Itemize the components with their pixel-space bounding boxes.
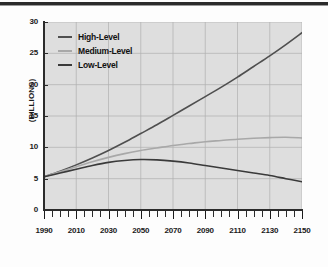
x-axis-tick-mark-major (109, 211, 110, 219)
x-axis-tick-label: 1990 (30, 226, 58, 235)
x-axis-tick-mark-minor (92, 211, 93, 217)
x-axis-tick-mark-minor (125, 211, 126, 217)
x-axis-tick-label: 2150 (288, 226, 316, 235)
x-axis-tick-mark-minor (165, 211, 166, 217)
x-axis-tick-label: 2090 (191, 226, 219, 235)
y-axis-tick-mark (44, 22, 48, 23)
x-axis-tick-mark-minor (100, 211, 101, 217)
x-axis-tick-mark-minor (229, 211, 230, 217)
x-axis-tick-mark-minor (189, 211, 190, 217)
x-axis-tick-mark-minor (246, 211, 247, 217)
y-axis-tick-label: 10 (16, 142, 38, 151)
y-axis-tick-label: 30 (16, 17, 38, 26)
legend-line-icon (58, 50, 72, 52)
x-axis-tick-mark-minor (149, 211, 150, 217)
x-axis-tick-mark-minor (117, 211, 118, 217)
x-axis-tick-label: 2030 (95, 226, 123, 235)
x-axis-tick-mark-major (141, 211, 142, 219)
x-axis-tick-mark-minor (133, 211, 134, 217)
x-axis-tick-mark-minor (213, 211, 214, 217)
x-axis-tick-mark-major (76, 211, 77, 219)
x-axis-tick-mark-minor (60, 211, 61, 217)
chart-legend: High-LevelMedium-LevelLow-Level (58, 30, 148, 72)
x-axis-tick-mark-major (44, 211, 45, 219)
x-axis-tick-mark-minor (197, 211, 198, 217)
x-axis-tick-mark-minor (278, 211, 279, 217)
y-axis-tick-mark (44, 53, 48, 54)
x-axis-tick-mark-major (238, 211, 239, 219)
legend-line-icon (58, 36, 72, 38)
x-axis-tick-mark-minor (84, 211, 85, 217)
y-axis-tick-label: 25 (16, 48, 38, 57)
figure-container: (BILLIONS) 051015202530 1990201020302050… (0, 0, 328, 267)
x-axis-tick-mark-minor (157, 211, 158, 217)
x-axis-tick-mark-minor (294, 211, 295, 217)
y-axis-tick-label: 0 (16, 205, 38, 214)
legend-line-icon (58, 64, 72, 66)
x-axis-tick-mark-major (173, 211, 174, 219)
y-axis-tick-mark (44, 116, 48, 117)
legend-item-label: High-Level (78, 32, 119, 42)
x-axis-tick-mark-major (270, 211, 271, 219)
x-axis-tick-label: 2110 (224, 226, 252, 235)
y-axis-tick-mark (44, 85, 48, 86)
x-axis-tick-mark-major (205, 211, 206, 219)
legend-item[interactable]: Medium-Level (58, 44, 148, 57)
legend-item[interactable]: Low-Level (58, 58, 148, 71)
y-axis-tick-label: 20 (16, 80, 38, 89)
legend-item-label: Medium-Level (78, 46, 132, 56)
x-axis-tick-mark-minor (286, 211, 287, 217)
legend-item[interactable]: High-Level (58, 30, 148, 43)
x-axis-tick-label: 2070 (159, 226, 187, 235)
y-axis-tick-mark (44, 179, 48, 180)
y-axis-tick-mark (44, 147, 48, 148)
x-axis-tick-mark-minor (52, 211, 53, 217)
x-axis-tick-label: 2050 (127, 226, 155, 235)
x-axis-tick-mark-minor (68, 211, 69, 217)
legend-item-label: Low-Level (78, 60, 118, 70)
x-axis-tick-mark-minor (254, 211, 255, 217)
y-axis-title: (BILLIONS) (27, 56, 36, 146)
x-axis-tick-mark-major (302, 211, 303, 219)
x-axis-tick-label: 2130 (256, 226, 284, 235)
x-axis-tick-mark-minor (221, 211, 222, 217)
y-axis-tick-label: 15 (16, 111, 38, 120)
x-axis-tick-label: 2010 (62, 226, 90, 235)
x-axis-tick-mark-minor (181, 211, 182, 217)
x-axis-tick-mark-minor (262, 211, 263, 217)
y-axis-tick-label: 5 (16, 174, 38, 183)
top-divider-shadow (0, 5, 328, 6)
